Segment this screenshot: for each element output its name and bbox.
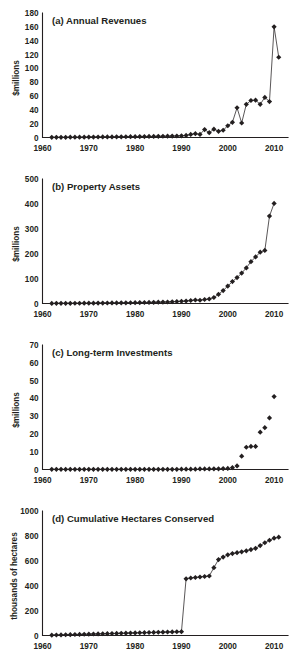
data-point-marker	[202, 466, 207, 471]
data-point-marker	[119, 467, 124, 472]
panel-d-series-line	[52, 537, 279, 635]
y-tick-label: 60	[29, 359, 39, 368]
data-point-marker	[68, 301, 73, 306]
panel-a-axes	[43, 13, 289, 138]
x-tick-label: 1980	[126, 144, 145, 153]
data-point-marker	[142, 134, 147, 139]
y-tick-label: 600	[25, 557, 39, 566]
x-tick-label: 1990	[172, 642, 191, 651]
data-point-marker	[165, 629, 170, 634]
data-point-marker	[197, 466, 202, 471]
panel-a-x-tick-labels: 196019701980199020002010	[33, 144, 283, 153]
data-point-marker	[188, 132, 193, 137]
y-tick-label: 140	[25, 37, 39, 46]
y-tick-label: 400	[25, 200, 39, 209]
panel-d-y-axis-title: thousands of hectares	[10, 532, 19, 620]
x-tick-label: 1960	[33, 476, 52, 485]
data-point-marker	[63, 135, 68, 140]
data-point-marker	[114, 134, 119, 139]
x-tick-label: 2000	[219, 476, 238, 485]
data-point-marker	[207, 573, 212, 578]
data-point-marker	[188, 575, 193, 580]
data-point-marker	[54, 301, 59, 306]
data-point-marker	[146, 300, 151, 305]
data-point-marker	[77, 301, 82, 306]
data-point-marker	[133, 300, 138, 305]
data-point-marker	[174, 629, 179, 634]
data-point-marker	[239, 454, 244, 459]
data-point-marker	[49, 135, 54, 140]
y-tick-label: 200	[25, 250, 39, 259]
data-point-marker	[105, 134, 110, 139]
panel-d-axes	[43, 511, 289, 636]
data-point-marker	[234, 105, 239, 110]
panel-c-long-term-investments: $millions (c) Long-term Investments 0102…	[0, 332, 297, 498]
data-point-marker	[230, 551, 235, 556]
panel-b-axes	[43, 179, 289, 304]
y-tick-label: 80	[29, 78, 39, 87]
data-point-marker	[151, 134, 156, 139]
data-point-marker	[193, 467, 198, 472]
y-tick-label: 40	[29, 106, 39, 115]
data-point-marker	[258, 430, 263, 435]
data-point-marker	[156, 630, 161, 635]
y-tick-label: 400	[25, 582, 39, 591]
data-point-marker	[119, 300, 124, 305]
panel-a-data-markers	[49, 24, 281, 140]
data-point-marker	[262, 425, 267, 430]
y-tick-label: 100	[25, 275, 39, 284]
data-point-marker	[105, 300, 110, 305]
data-point-marker	[100, 134, 105, 139]
data-point-marker	[63, 301, 68, 306]
data-point-marker	[276, 535, 281, 540]
panel-b-svg: $millions (b) Property Assets 0100200300…	[0, 166, 297, 332]
x-tick-label: 1980	[126, 310, 145, 319]
data-point-marker	[253, 546, 258, 551]
x-tick-label: 2000	[219, 310, 238, 319]
data-point-marker	[151, 467, 156, 472]
data-point-marker	[179, 629, 184, 634]
data-point-marker	[68, 632, 73, 637]
data-point-marker	[123, 467, 128, 472]
y-tick-label: 10	[29, 448, 39, 457]
panel-c-y-axis-title: $millions	[12, 392, 21, 428]
data-point-marker	[272, 536, 277, 541]
data-point-marker	[109, 134, 114, 139]
data-point-marker	[114, 467, 119, 472]
data-point-marker	[272, 201, 277, 206]
data-point-marker	[221, 466, 226, 471]
data-point-marker	[128, 467, 133, 472]
panel-c-x-tick-labels: 196019701980199020002010	[33, 476, 283, 485]
data-point-marker	[68, 135, 73, 140]
data-point-marker	[68, 467, 73, 472]
data-point-marker	[146, 630, 151, 635]
y-tick-label: 800	[25, 532, 39, 541]
data-point-marker	[197, 298, 202, 303]
data-point-marker	[234, 463, 239, 468]
data-point-marker	[49, 633, 54, 638]
data-point-marker	[49, 467, 54, 472]
panel-d-y-tick-labels: 02004006008001000	[20, 507, 39, 641]
y-tick-label: 60	[29, 92, 39, 101]
panel-d-data-markers	[49, 535, 281, 638]
x-tick-label: 1960	[33, 642, 52, 651]
data-point-marker	[225, 466, 230, 471]
data-point-marker	[72, 467, 77, 472]
data-point-marker	[258, 543, 263, 548]
y-tick-label: 200	[25, 607, 39, 616]
x-tick-label: 1980	[126, 642, 145, 651]
y-tick-label: 160	[25, 23, 39, 32]
data-point-marker	[133, 134, 138, 139]
panel-a-y-axis-title: $millions	[12, 60, 21, 96]
data-point-marker	[86, 467, 91, 472]
data-point-marker	[82, 135, 87, 140]
panel-a-annual-revenues: $millions (a) Annual Revenues 0204060801…	[0, 0, 297, 166]
data-point-marker	[146, 134, 151, 139]
data-point-marker	[86, 134, 91, 139]
data-point-marker	[267, 415, 272, 420]
data-point-marker	[151, 630, 156, 635]
data-point-marker	[137, 134, 142, 139]
data-point-marker	[100, 467, 105, 472]
data-point-marker	[170, 629, 175, 634]
data-point-marker	[58, 301, 63, 306]
